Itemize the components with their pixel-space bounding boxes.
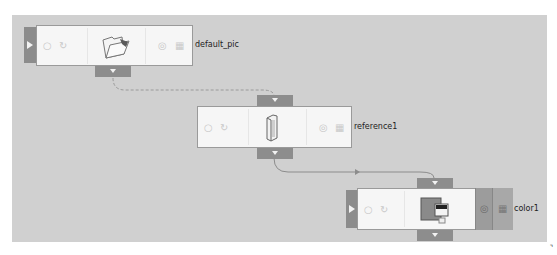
render-icon[interactable]: ◎ — [319, 123, 328, 133]
cycle-icon[interactable]: ↻ — [59, 41, 67, 51]
enable-icon[interactable]: ○ — [204, 123, 213, 133]
node-output-port[interactable] — [95, 66, 131, 77]
film-icon[interactable]: ▦ — [335, 123, 344, 133]
node-body[interactable]: ○ ↻ ◎ ▦ — [36, 25, 193, 66]
arrow-down-icon — [432, 233, 438, 237]
node-input-port[interactable] — [257, 95, 293, 106]
color-swatch-icon — [419, 196, 451, 226]
enable-icon[interactable]: ○ — [364, 205, 373, 215]
divider — [306, 109, 307, 145]
node-label: default_pic — [195, 40, 239, 49]
divider — [248, 109, 249, 145]
play-icon — [27, 41, 33, 49]
arrow-down-icon — [272, 151, 278, 155]
node-input-expand-button[interactable] — [24, 27, 36, 63]
render-toggle-active[interactable]: ◎ — [475, 188, 493, 230]
arrow-down-icon — [432, 181, 438, 185]
film-icon[interactable]: ▦ — [175, 41, 184, 51]
play-icon — [349, 205, 355, 213]
node-label: reference1 — [354, 122, 397, 131]
divider — [87, 28, 88, 64]
node-body[interactable]: ○ ↻ ◎ ▦ — [357, 188, 512, 230]
cycle-icon[interactable]: ↻ — [220, 123, 228, 133]
divider — [145, 28, 146, 64]
book-icon — [265, 114, 279, 142]
folder-icon — [100, 32, 132, 60]
node-body[interactable]: ○ ↻ ◎ ▦ — [197, 106, 352, 148]
resize-corner-icon[interactable]: ⌝ — [550, 244, 553, 252]
render-icon: ◎ — [480, 204, 489, 214]
film-icon: ▦ — [498, 204, 507, 214]
enable-icon[interactable]: ○ — [43, 41, 52, 51]
arrow-down-icon — [272, 98, 278, 102]
node-output-port[interactable] — [417, 230, 453, 241]
render-icon[interactable]: ◎ — [158, 41, 167, 51]
node-label: color1 — [514, 204, 539, 213]
cycle-icon[interactable]: ↻ — [380, 205, 388, 215]
arrow-down-icon — [110, 69, 116, 73]
film-toggle-active[interactable]: ▦ — [492, 188, 513, 230]
node-output-port[interactable] — [257, 148, 293, 159]
divider — [404, 191, 405, 227]
